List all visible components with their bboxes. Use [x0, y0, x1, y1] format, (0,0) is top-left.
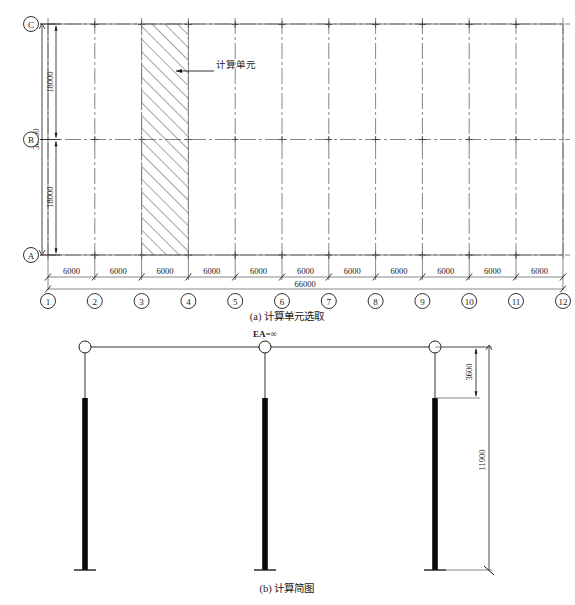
computation-unit-hatch [142, 24, 189, 255]
column-bubble-7: 7 [321, 294, 336, 309]
column-bubble-12: 12 [556, 294, 571, 309]
upper-column-segments [85, 353, 435, 398]
column-bubble-8: 8 [368, 294, 383, 309]
bay-label: 6000 [531, 266, 548, 276]
row-bubble-C: C [24, 17, 39, 32]
column-bubble-label: 10 [465, 297, 475, 307]
column-bubble-1: 1 [41, 294, 56, 309]
column-shaft [432, 398, 438, 570]
column-bubble-10: 10 [462, 294, 477, 309]
plan-dim-18000-top: 18000 [45, 71, 55, 92]
column-bubble-label: 9 [420, 297, 425, 307]
bay-label: 6000 [437, 266, 454, 276]
plan-horizontal-gridlines [40, 24, 570, 255]
plan-dim-18000-bottom: 18000 [45, 186, 55, 207]
column-bubble-label: 3 [139, 297, 144, 307]
column-bubble-label: 12 [559, 297, 568, 307]
column-bubble-label: 11 [512, 297, 521, 307]
column-shaft [262, 398, 268, 570]
bay-label: 6000 [110, 266, 127, 276]
bay-label: 6000 [157, 266, 174, 276]
row-bubble-C-label: C [28, 20, 34, 30]
frame-dim-3600: 3600 [464, 364, 474, 381]
column-shaft [82, 398, 88, 570]
column-bubble-5: 5 [228, 294, 243, 309]
bay-label: 6000 [344, 266, 361, 276]
plan-vertical-gridlines [48, 18, 563, 262]
column-bubble-label: 6 [280, 297, 285, 307]
plan-column-bubbles: 1 2 3 4 5 [41, 294, 571, 309]
column-bubble-label: 8 [373, 297, 378, 307]
row-bubble-B: B [24, 132, 39, 147]
bay-label: 6000 [203, 266, 220, 276]
plan-total-span-label: 66000 [294, 279, 315, 289]
computation-unit-leader [176, 69, 214, 73]
plan-bay-labels: 6000 6000 6000 6000 6000 6000 6000 6000 … [63, 266, 548, 276]
figure-caption-a: (a) 计算单元选取 [250, 310, 325, 323]
bay-label: 6000 [484, 266, 501, 276]
column-bubble-label: 4 [186, 297, 191, 307]
column-bubble-2: 2 [87, 294, 102, 309]
plan-view-group: 计算单元 18000 18000 36000 [24, 17, 571, 324]
bay-label: 6000 [250, 266, 267, 276]
engineering-drawing-figure: 计算单元 18000 18000 36000 [0, 0, 575, 605]
bay-label: 6000 [391, 266, 408, 276]
frame-model-group: EA=∞ [74, 329, 494, 595]
column-bubble-label: 2 [93, 297, 98, 307]
row-bubble-A-label: A [28, 251, 35, 261]
column-bubble-11: 11 [509, 294, 524, 309]
figure-caption-b: (b) 计算简图 [260, 582, 315, 595]
bay-label: 6000 [297, 266, 314, 276]
row-bubble-B-label: B [28, 135, 34, 145]
computation-unit-label: 计算单元 [216, 59, 256, 70]
bay-label: 6000 [63, 266, 80, 276]
column-bubble-label: 5 [233, 297, 238, 307]
column-shafts [82, 398, 438, 570]
column-bubble-4: 4 [181, 294, 196, 309]
drawing-canvas: 计算单元 18000 18000 36000 [0, 0, 575, 605]
frame-dim-11900: 11900 [477, 450, 487, 471]
axial-stiffness-label: EA=∞ [253, 329, 277, 339]
column-bubble-6: 6 [275, 294, 290, 309]
plan-row-bubbles: C B A [24, 17, 39, 263]
column-bubble-label: 7 [327, 297, 332, 307]
column-bubble-label: 1 [46, 297, 51, 307]
column-bubble-3: 3 [134, 294, 149, 309]
column-bubble-9: 9 [415, 294, 430, 309]
row-bubble-A: A [24, 248, 39, 263]
plan-vertical-dimension-group [39, 24, 60, 255]
